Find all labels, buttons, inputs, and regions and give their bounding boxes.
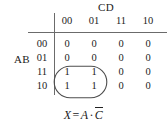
column-header-01: 01 [83,15,105,27]
cell-r3-c1: 1 [83,80,105,92]
expression-output: X [64,108,72,122]
column-header-10: 10 [137,15,159,27]
expression-equals: = [72,108,81,122]
cell-r0-c0: 0 [56,38,78,50]
vertical-axis-rule [54,13,55,95]
kmap-value-grid: 0 0 0 0 0 0 0 0 1 1 0 0 1 1 0 0 [56,38,167,96]
cell-r0-c3: 0 [137,38,159,50]
cell-r1-c2: 0 [110,52,132,64]
cell-r2-c0: 1 [56,66,78,78]
karnaugh-map-figure: CD AB 00 01 11 10 00 01 11 10 0 0 0 0 0 … [0,0,167,127]
row-header-01: 01 [32,52,52,64]
cell-r0-c2: 0 [110,38,132,50]
cell-r2-c3: 0 [137,66,159,78]
cell-r1-c1: 0 [83,52,105,64]
row-variable-label: AB [11,53,33,65]
cell-r3-c2: 0 [110,80,132,92]
horizontal-axis-rule [28,32,167,33]
cell-r2-c2: 0 [110,66,132,78]
row-header-10: 10 [32,80,52,92]
cell-r1-c3: 0 [137,52,159,64]
expression-term2-complement: C [95,106,103,123]
cell-r1-c0: 0 [56,52,78,64]
cell-r3-c3: 0 [137,80,159,92]
boolean-expression: X=A·C [0,106,167,123]
column-header-row: 00 01 11 10 [56,15,167,27]
column-variable-label: CD [92,1,120,13]
row-header-00: 00 [32,38,52,50]
column-header-00: 00 [56,15,78,27]
cell-r2-c1: 1 [83,66,105,78]
column-header-11: 11 [110,15,132,27]
row-header-column: 00 01 11 10 [32,38,52,96]
row-header-11: 11 [32,66,52,78]
cell-r3-c0: 1 [56,80,78,92]
cell-r0-c1: 0 [83,38,105,50]
